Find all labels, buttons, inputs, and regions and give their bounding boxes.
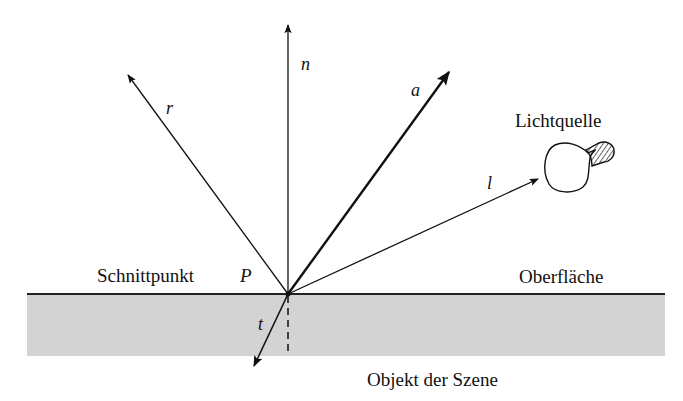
vector-l [288,179,538,294]
scene-object [27,294,665,356]
vector-a [288,72,449,294]
label-intersection: Schnittpunkt [97,265,195,286]
label-r: r [166,98,174,118]
label-n: n [301,54,310,74]
light-bulb-icon [545,142,614,192]
ray-diagram: n r a l t Schnittpunkt P Lichtquelle Obe… [0,0,683,401]
intersection-point [286,292,291,297]
label-l: l [487,173,492,193]
vector-r [128,75,288,294]
label-object: Objekt der Szene [367,369,498,390]
label-surface: Oberfläche [519,266,603,287]
label-light-source: Lichtquelle [515,110,602,131]
label-point-p: P [239,265,252,286]
label-a: a [411,80,420,100]
